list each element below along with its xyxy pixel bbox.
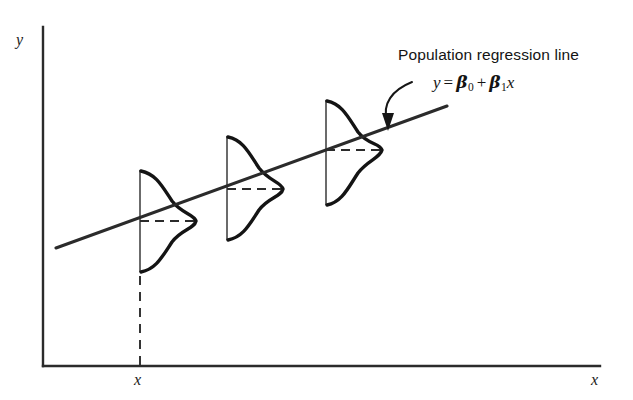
equation-beta-1: β <box>489 72 500 92</box>
equation-beta-0: β <box>456 72 467 92</box>
x-axis-label: x <box>591 372 598 388</box>
regression-equation: y=β0+β1x <box>433 72 514 93</box>
equation-lhs: y <box>433 73 441 92</box>
equation-equals: = <box>441 73 457 92</box>
equation-variable-x: x <box>507 73 515 92</box>
equation-plus: + <box>474 73 490 92</box>
distribution-3-curve <box>327 101 382 205</box>
y-axis-label: y <box>16 32 23 48</box>
regression-diagram: y x x Population regression line y=β0+β1… <box>0 0 633 400</box>
x-axis-tick-label: x <box>134 372 141 388</box>
equation-subscript-0: 0 <box>467 81 473 93</box>
regression-line-callout-title: Population regression line <box>398 46 579 64</box>
